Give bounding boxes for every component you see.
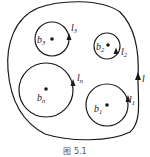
point-b1-label: b1 xyxy=(94,103,102,115)
outer-contour-label: l xyxy=(142,73,145,84)
point-bn-dot xyxy=(44,87,48,91)
point-b1-dot xyxy=(105,103,109,107)
figure-caption: 图 5.1 xyxy=(63,147,86,156)
contour-ln-label: ln xyxy=(77,72,83,84)
point-bn-label: bn xyxy=(37,92,45,104)
contour-l3-label: l3 xyxy=(71,22,78,34)
contour-diagram: l b3 l3 b2 l2 bn ln b1 l1 图 5.1 xyxy=(0,0,150,157)
contour-l2-arrow-icon xyxy=(114,48,119,55)
point-b3-dot xyxy=(50,37,54,41)
contour-l2-label: l2 xyxy=(121,46,128,58)
outer-contour-arrow-icon xyxy=(135,72,141,80)
contour-l3-arrow-icon xyxy=(67,33,72,40)
point-b2-dot xyxy=(106,43,110,47)
contour-l1-label: l1 xyxy=(129,94,135,106)
point-b2-label: b2 xyxy=(96,41,105,53)
point-b3-label: b3 xyxy=(37,34,46,46)
